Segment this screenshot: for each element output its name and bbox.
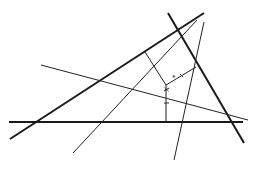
- geometry-diagram: x *: [0, 0, 260, 177]
- point-label-x: x: [161, 87, 171, 92]
- line-3: [41, 65, 248, 120]
- triangle-sides: [9, 13, 244, 143]
- point-label-star: *: [172, 74, 176, 82]
- side-c: [168, 13, 244, 143]
- perp-to-c: [166, 67, 196, 85]
- line-2: [174, 22, 204, 160]
- auxiliary-lines: [41, 20, 248, 160]
